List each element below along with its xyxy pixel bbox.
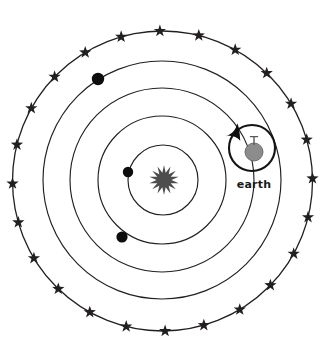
fixed-star <box>302 211 314 223</box>
fixed-star <box>198 319 210 331</box>
fixed-star <box>28 252 40 264</box>
planet-outer <box>92 73 104 85</box>
fixed-star <box>11 138 23 150</box>
fixed-star <box>288 247 300 259</box>
rotation-arrow-icon <box>226 123 241 141</box>
sun-icon <box>149 165 178 195</box>
fixed-star <box>234 303 246 315</box>
fixed-star <box>79 46 91 58</box>
heliocentric-diagram: earth <box>0 0 336 357</box>
fixed-star <box>159 325 171 337</box>
fixed-star <box>154 25 166 37</box>
planet-dot-group <box>92 73 133 243</box>
earth-globe-icon <box>245 143 263 161</box>
fixed-star <box>120 320 132 332</box>
diagram-canvas: earth <box>0 0 336 357</box>
fixed-star <box>193 29 205 41</box>
earth-label: earth <box>237 178 271 191</box>
fixed-star <box>301 133 313 145</box>
fixed-star <box>285 97 297 109</box>
fixed-star <box>12 216 24 228</box>
fixed-star <box>25 102 37 114</box>
fixed-star <box>229 43 241 55</box>
earth-group: earth <box>226 123 275 191</box>
planet-inner <box>123 167 133 177</box>
planet-middle <box>116 231 127 242</box>
fixed-star <box>84 306 96 318</box>
sun-starburst-icon <box>149 165 178 195</box>
fixed-star <box>115 30 127 42</box>
